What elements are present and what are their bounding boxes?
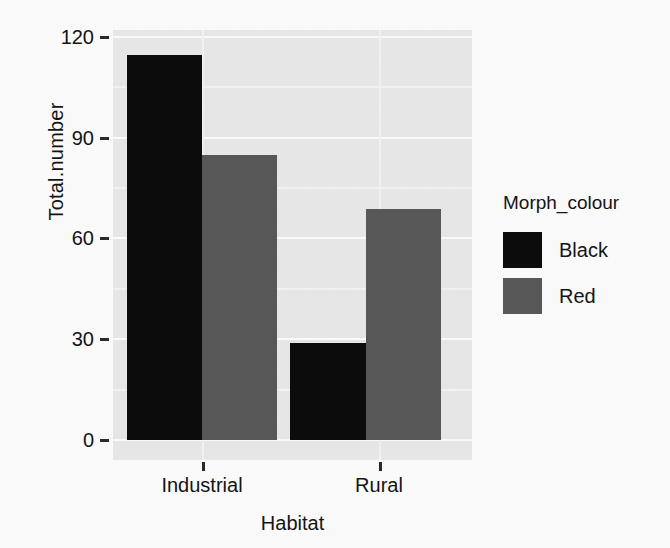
y-tick-mark-60 <box>100 237 109 240</box>
y-tick-mark-90 <box>100 137 109 140</box>
legend-label-black: Black <box>559 239 608 262</box>
bar-rural-red <box>366 209 441 440</box>
x-tick-label-rural: Rural <box>299 474 459 497</box>
x-tick-mark-industrial <box>202 462 205 471</box>
gridline-major-120 <box>113 36 472 38</box>
y-tick-mark-0 <box>100 439 109 442</box>
legend-title: Morph_colour <box>503 192 663 214</box>
x-tick-mark-rural <box>379 462 382 471</box>
bar-rural-black <box>290 343 366 440</box>
y-axis-ticks <box>0 0 113 548</box>
legend-item-black[interactable]: Black <box>503 232 663 268</box>
legend: Morph_colour Black Red <box>503 192 663 324</box>
y-tick-mark-30 <box>100 338 109 341</box>
x-tick-label-industrial: Industrial <box>122 474 282 497</box>
legend-label-red: Red <box>559 285 596 308</box>
bar-industrial-black <box>127 55 202 440</box>
legend-item-red[interactable]: Red <box>503 278 663 314</box>
plot-panel <box>113 30 472 460</box>
bar-chart: Total.number 120 90 60 30 0 <box>0 0 670 548</box>
legend-swatch-black <box>503 232 542 268</box>
legend-swatch-red <box>503 278 542 314</box>
x-axis-title: Habitat <box>113 512 472 535</box>
y-tick-mark-120 <box>100 36 109 39</box>
bar-industrial-red <box>202 155 277 440</box>
